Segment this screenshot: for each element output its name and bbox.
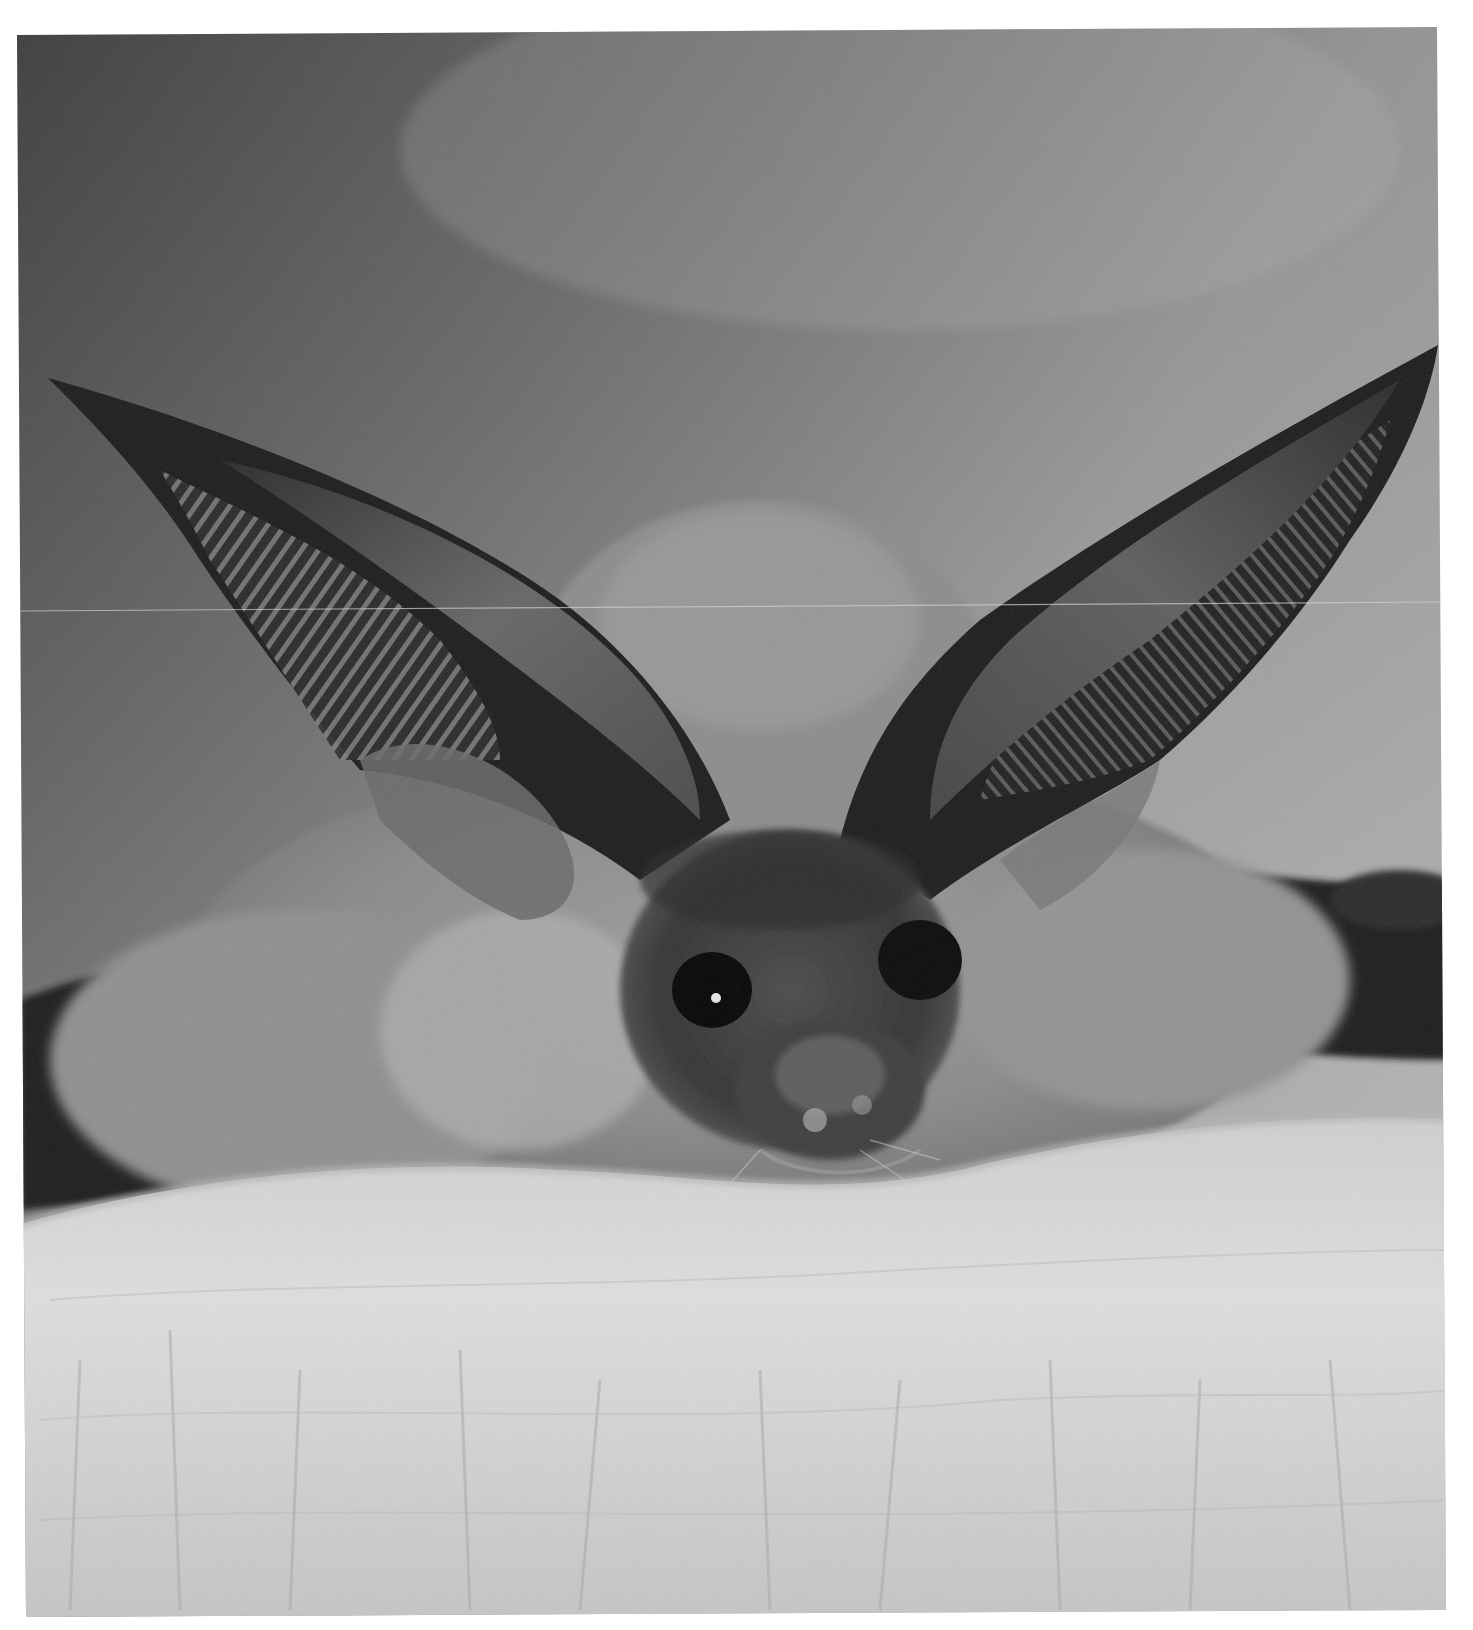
photo-content — [0, 0, 1473, 1630]
photo-canvas — [0, 0, 1473, 1630]
bat-photograph: Close-up of a long-eared bat with large … — [0, 0, 1473, 1630]
